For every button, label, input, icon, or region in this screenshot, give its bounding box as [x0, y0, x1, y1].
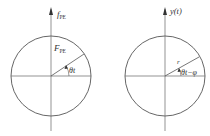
right-angle-label: θt−φ — [181, 68, 198, 77]
left-radius-line — [51, 54, 84, 76]
right-radius-label: r — [177, 58, 180, 66]
right-axis-arrow-icon — [163, 7, 167, 15]
phasor-diagrams: fPE FPE θt y(t) r θt−φ — [0, 0, 210, 136]
right-phasor-diagram: y(t) r θt−φ — [125, 6, 205, 131]
left-radius-label: FPE — [53, 43, 67, 54]
left-phasor-diagram: fPE FPE θt — [11, 7, 91, 131]
left-axis-arrow-icon — [49, 7, 53, 15]
left-axis-label: fPE — [57, 9, 67, 20]
right-axis-label: y(t) — [169, 6, 182, 16]
left-angle-label: θt — [69, 66, 76, 75]
